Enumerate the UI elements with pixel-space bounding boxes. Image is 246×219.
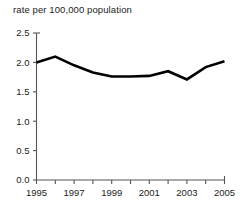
x-axis-tick-label: 2003 bbox=[176, 187, 197, 198]
x-axis-tick-label: 1995 bbox=[26, 187, 47, 198]
chart-figure: rate per 100,000 population 0.00.51.01.5… bbox=[0, 0, 246, 219]
data-series-group bbox=[37, 57, 225, 80]
x-axis-tick-label: 1999 bbox=[101, 187, 122, 198]
data-line-rate-per-100-000-population bbox=[37, 57, 225, 80]
y-axis-tick-label: 2.0 bbox=[16, 57, 29, 68]
x-axis-tick-label: 2001 bbox=[139, 187, 160, 198]
x-axis-tick-label: 2005 bbox=[214, 187, 235, 198]
y-axis-tick-label: 1.5 bbox=[16, 86, 29, 97]
y-axis-tick-label: 1.0 bbox=[16, 116, 29, 127]
line-chart-plot: 0.00.51.01.52.02.5 199519971999200120032… bbox=[0, 0, 246, 219]
y-axis-tick-label: 2.5 bbox=[16, 27, 29, 38]
x-axis-tick-label: 1997 bbox=[64, 187, 85, 198]
y-axis: 0.00.51.01.52.02.5 bbox=[16, 27, 40, 185]
y-axis-tick-label: 0.0 bbox=[16, 174, 29, 185]
y-axis-tick-label: 0.5 bbox=[16, 145, 29, 156]
x-axis: 199519971999200120032005 bbox=[26, 176, 235, 198]
